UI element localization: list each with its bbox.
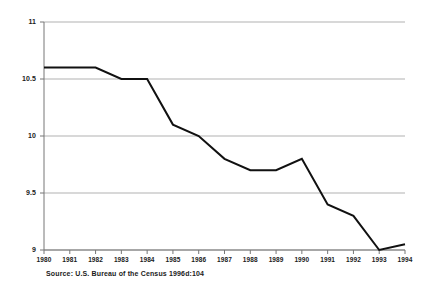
gridlines	[44, 22, 405, 250]
y-tick-label: 11	[10, 18, 36, 25]
y-tick-label: 9.5	[10, 189, 36, 196]
chart-figure: 99.51010.511 198019811982198319841985198…	[0, 0, 430, 296]
y-tick-label: 10.5	[10, 75, 36, 82]
x-axis-ticks	[44, 250, 405, 254]
series-line	[44, 68, 405, 250]
y-axis-ticks	[40, 22, 44, 250]
source-note: Source: U.S. Bureau of the Census 1996d:…	[46, 270, 204, 277]
x-tick-label: 1994	[390, 256, 420, 263]
y-tick-label: 10	[10, 132, 36, 139]
data-series-line	[44, 68, 405, 250]
line-chart-plot	[0, 0, 430, 296]
y-tick-label: 9	[10, 246, 36, 253]
